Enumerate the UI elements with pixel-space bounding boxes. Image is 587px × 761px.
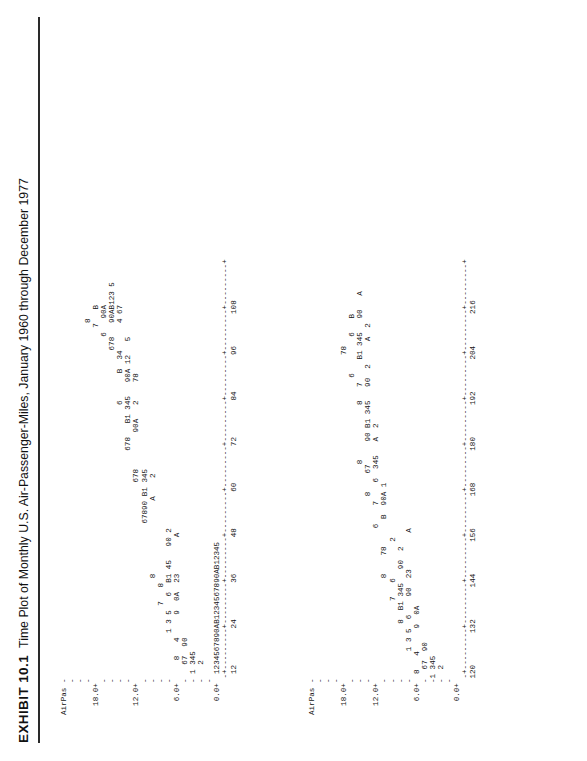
exhibit-number: EXHIBIT 10.1 [16,655,31,743]
exhibit-header: EXHIBIT 10.1Time Plot of Monthly U.S. Ai… [14,17,32,743]
exhibit-title: Time Plot of Monthly U.S. Air-Passenger-… [17,178,31,648]
rotated-page: EXHIBIT 10.1Time Plot of Monthly U.S. Ai… [0,0,587,761]
lower-time-plot: AirPas - - - - 18.0+ 78 - 6 [308,259,478,715]
header-rule [38,17,40,743]
upper-time-plot: AirPas - - - - 8 18.0+ [60,259,238,715]
exhibit-page: EXHIBIT 10.1Time Plot of Monthly U.S. Ai… [0,0,587,761]
